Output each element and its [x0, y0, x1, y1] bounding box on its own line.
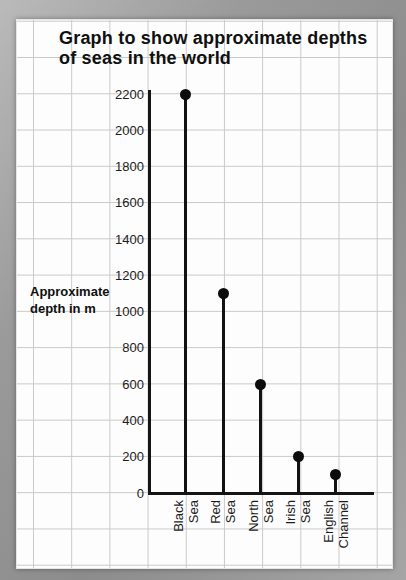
x-axis-label-word: Sea — [262, 500, 276, 570]
chart-title-line2: of seas in the world — [59, 49, 389, 69]
y-tick-label: 200 — [96, 449, 144, 464]
x-axis-label-word: Red — [209, 500, 223, 570]
x-axis-label-word: Irish — [284, 500, 298, 570]
lollipop-stem — [184, 94, 187, 493]
y-tick-label: 1400 — [96, 232, 144, 247]
y-tick-label: 1600 — [96, 195, 144, 210]
photo-gray-border: Graph to show approximate depths of seas… — [0, 0, 406, 580]
y-tick-label: 1200 — [96, 268, 144, 283]
x-axis-label-word: English — [322, 500, 336, 570]
y-axis-line — [148, 90, 151, 495]
x-axis-label-word: Sea — [224, 500, 238, 570]
y-axis-title-line1: Approximate — [30, 283, 140, 300]
chart-title: Graph to show approximate depths of seas… — [59, 29, 389, 68]
y-tick-label: 400 — [96, 413, 144, 428]
y-tick-label: 600 — [96, 377, 144, 392]
x-axis-label-word: Sea — [187, 500, 201, 570]
lollipop-dot — [330, 469, 341, 480]
y-tick-label: 800 — [96, 340, 144, 355]
x-axis-label-word: Channel — [337, 500, 351, 570]
y-tick-label: 0 — [96, 486, 144, 501]
lollipop-stem — [259, 384, 262, 493]
x-axis-label-word: Sea — [299, 500, 313, 570]
y-tick-label: 2000 — [96, 123, 144, 138]
lollipop-dot — [255, 379, 266, 390]
graph-paper-page: Graph to show approximate depths of seas… — [16, 19, 393, 569]
lollipop-stem — [222, 294, 225, 494]
lollipop-dot — [293, 451, 304, 462]
y-tick-label: 2200 — [96, 87, 144, 102]
chart-title-line1: Graph to show approximate depths — [59, 29, 389, 49]
x-axis-label-word: North — [247, 500, 261, 570]
lollipop-stem — [297, 457, 300, 493]
y-tick-label: 1800 — [96, 159, 144, 174]
lollipop-dot — [218, 288, 229, 299]
lollipop-dot — [180, 89, 191, 100]
y-tick-label: 1000 — [96, 304, 144, 319]
x-axis-label-word: Black — [172, 500, 186, 570]
